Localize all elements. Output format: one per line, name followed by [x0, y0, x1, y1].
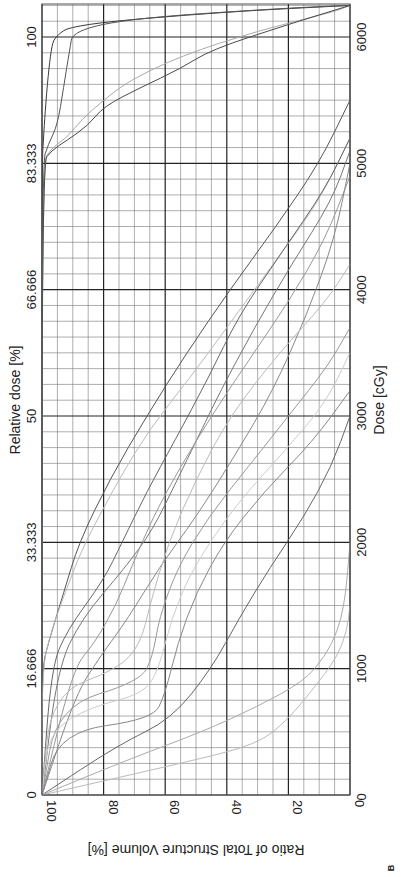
- relative-dose-tick: 66.666: [24, 270, 39, 310]
- dose-tick: 3000: [354, 402, 369, 431]
- minor-gridlines: [42, 4, 350, 795]
- panel-label: B: [386, 864, 396, 871]
- volume-tick: 80: [106, 800, 121, 814]
- relative-dose-tick-labels: 016.66633.3335066.66683.333100: [24, 26, 39, 798]
- dose-tick: 5000: [354, 149, 369, 178]
- volume-tick: 100: [44, 800, 59, 822]
- relative-dose-tick: 16.666: [24, 649, 39, 689]
- relative-dose-tick: 100: [24, 26, 39, 48]
- relative-dose-tick: 0: [24, 791, 39, 798]
- dose-tick-labels: 0100020003000400050006000: [354, 23, 369, 801]
- relative-dose-tick: 83.333: [24, 143, 39, 183]
- relative-dose-tick: 50: [24, 409, 39, 423]
- relative-dose-axis-title: Relative dose [%]: [7, 346, 23, 455]
- volume-tick: 20: [290, 800, 305, 814]
- relative-dose-tick: 33.333: [24, 522, 39, 562]
- volume-tick: 40: [229, 800, 244, 814]
- volume-tick-labels: 020406080100: [44, 800, 367, 822]
- dose-tick: 6000: [354, 23, 369, 52]
- volume-tick: 0: [352, 800, 367, 807]
- dvh-chart: 016.66633.3335066.66683.333100 010002000…: [0, 0, 404, 877]
- dose-axis-title: Dose [cGy]: [371, 365, 387, 434]
- volume-axis-title: Ratio of Total Structure Volume [%]: [88, 842, 305, 858]
- dose-tick: 4000: [354, 275, 369, 304]
- volume-tick: 60: [167, 800, 182, 814]
- dose-tick: 2000: [354, 528, 369, 557]
- dose-tick: 1000: [354, 654, 369, 683]
